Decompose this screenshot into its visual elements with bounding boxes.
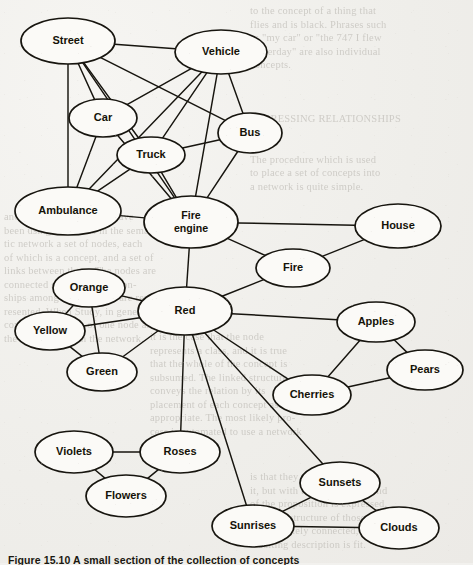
graph-edge-violets-flowers xyxy=(95,470,105,478)
node-label-bus: Bus xyxy=(240,126,261,138)
graph-edge-orange-green xyxy=(92,307,99,353)
node-label-red: Red xyxy=(175,304,196,316)
node-label-apples: Apples xyxy=(358,315,395,327)
graph-node-orange[interactable]: Orange xyxy=(53,269,125,307)
graph-node-truck[interactable]: Truck xyxy=(117,137,185,173)
graph-node-bus[interactable]: Bus xyxy=(218,113,282,153)
graph-node-yellow[interactable]: Yellow xyxy=(15,312,85,350)
node-label-truck: Truck xyxy=(136,148,166,160)
node-label-vehicle: Vehicle xyxy=(202,45,240,57)
graph-edge-ambulance-fire_engine xyxy=(120,216,145,218)
graph-edge-truck-fire_engine xyxy=(161,172,176,197)
graph-edge-sunsets-sunrises xyxy=(283,497,311,511)
graph-node-house[interactable]: House xyxy=(355,204,441,248)
graph-node-ambulance[interactable]: Ambulance xyxy=(15,187,121,235)
node-label-ambulance: Ambulance xyxy=(38,204,97,216)
graph-edge-sunrises-clouds xyxy=(294,527,359,528)
graph-node-clouds[interactable]: Clouds xyxy=(359,507,439,549)
node-label-pears: Pears xyxy=(410,363,440,375)
graph-edge-apples-pears xyxy=(394,340,407,353)
graph-edge-bus-fire_engine xyxy=(207,151,238,197)
node-label-sunsets: Sunsets xyxy=(319,476,362,488)
graph-node-pears[interactable]: Pears xyxy=(387,350,463,390)
graph-edge-vehicle-bus xyxy=(229,74,243,114)
graph-edge-roses-flowers xyxy=(148,470,159,479)
graph-edge-fire_engine-fire xyxy=(227,238,265,255)
graph-node-cherries[interactable]: Cherries xyxy=(273,375,351,415)
graph-edge-truck-bus xyxy=(182,140,220,148)
graph-node-fire[interactable]: Fire xyxy=(256,249,330,287)
graph-edge-red-sunrises xyxy=(192,335,246,506)
graph-node-flowers[interactable]: Flowers xyxy=(86,475,166,517)
node-label-street: Street xyxy=(52,34,84,46)
graph-edge-orange-yellow xyxy=(65,305,73,314)
graph-edge-car-ambulance xyxy=(77,137,96,188)
node-label-green: Green xyxy=(86,365,118,377)
graph-node-apples[interactable]: Apples xyxy=(337,302,415,342)
node-label-fire: Fire xyxy=(283,261,303,273)
graph-edge-red-roses xyxy=(181,335,184,431)
graph-edge-truck-ambulance xyxy=(98,169,130,191)
node-label-cherries: Cherries xyxy=(290,388,335,400)
graph-node-layer: StreetVehicleCarBusTruckAmbulanceFireeng… xyxy=(15,18,463,549)
graph-edge-red-orange xyxy=(122,296,143,301)
node-label-car: Car xyxy=(94,111,113,123)
graph-edge-yellow-green xyxy=(70,347,82,357)
graph-node-sunrises[interactable]: Sunrises xyxy=(212,505,294,547)
graph-node-car[interactable]: Car xyxy=(69,99,137,137)
graph-edge-red-yellow xyxy=(84,318,140,326)
node-label-clouds: Clouds xyxy=(380,521,417,533)
graph-node-roses[interactable]: Roses xyxy=(140,431,220,473)
figure-caption: Figure 15.10 A small section of the coll… xyxy=(8,554,300,565)
graph-edge-red-apples xyxy=(232,314,338,320)
graph-edge-apples-cherries xyxy=(328,340,360,377)
node-label-flowers: Flowers xyxy=(105,489,147,501)
node-label-violets: Violets xyxy=(56,445,92,457)
graph-edge-sunsets-clouds xyxy=(363,500,377,510)
node-label-sunrises: Sunrises xyxy=(230,519,276,531)
graph-edge-cherries-pears xyxy=(348,378,390,387)
graph-edge-red-green xyxy=(123,331,158,357)
node-label-orange: Orange xyxy=(70,281,109,293)
graph-node-fire_engine[interactable]: Fireengine xyxy=(144,196,238,248)
graph-node-sunsets[interactable]: Sunsets xyxy=(300,462,380,504)
graph-edge-fire-house xyxy=(322,240,364,257)
graph-node-red[interactable]: Red xyxy=(138,287,232,335)
graph-edge-vehicle-fire_engine xyxy=(196,74,218,196)
node-label-roses: Roses xyxy=(163,445,196,457)
node-label-house: House xyxy=(381,219,415,231)
graph-edge-fire_engine-red xyxy=(187,248,190,287)
graph-node-violets[interactable]: Violets xyxy=(35,431,113,473)
graph-node-street[interactable]: Street xyxy=(21,18,115,64)
node-label-yellow: Yellow xyxy=(33,324,68,336)
graph-node-green[interactable]: Green xyxy=(67,353,137,391)
graph-node-vehicle[interactable]: Vehicle xyxy=(175,30,267,74)
graph-edge-street-vehicle xyxy=(115,44,176,48)
graph-edge-fire-red xyxy=(222,280,264,297)
graph-edge-fire_engine-house xyxy=(238,223,355,225)
